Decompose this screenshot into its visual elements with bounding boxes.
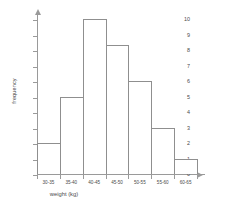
x-axis-tick: [106, 174, 107, 179]
x-axis-tick: [83, 174, 84, 179]
x-axis-tick: [174, 174, 175, 179]
histogram-bar: [37, 143, 61, 174]
x-axis-label: weight (kg): [24, 191, 104, 197]
histogram-bar: [83, 19, 107, 174]
histogram-bar: [60, 97, 84, 175]
histogram-bar: [151, 128, 175, 175]
plot-area: 012345678910 30-3535-4040-4545-5050-5555…: [37, 20, 197, 175]
histogram-chart: frequency 012345678910 30-3535-4040-4545…: [0, 0, 226, 209]
histogram-bar: [106, 45, 130, 174]
y-axis-arrow-icon: [35, 9, 41, 15]
x-axis-tick: [37, 174, 38, 179]
histogram-bar: [128, 81, 152, 174]
x-axis-tick: [128, 174, 129, 179]
x-axis-tick-label: 60-65: [171, 180, 201, 185]
x-axis-tick: [60, 174, 61, 179]
x-axis-tick: [197, 174, 198, 179]
histogram-bar: [174, 159, 198, 175]
bar-series: [37, 19, 197, 174]
y-axis-label: frequency: [11, 61, 17, 121]
x-axis-tick: [151, 174, 152, 179]
